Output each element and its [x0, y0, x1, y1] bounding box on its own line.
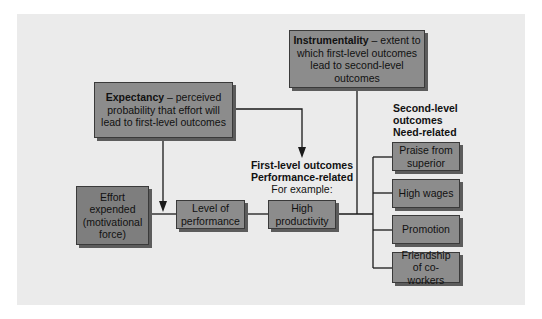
second-level-item-label: Praise from superior	[396, 144, 456, 169]
effort-expended-label: Effort expended (motivational force)	[79, 191, 146, 241]
second-level-item-promotion: Promotion	[392, 215, 460, 244]
second-level-item-label: High wages	[399, 187, 454, 200]
second-level-item-high-wages: High wages	[392, 179, 460, 208]
second-level-title: Second-level outcomes	[393, 102, 483, 126]
second-level-item-label: Promotion	[402, 223, 450, 236]
first-level-example-label: For example:	[240, 183, 364, 195]
instrumentality-box: Instrumentality – extent to which first-…	[289, 30, 425, 88]
second-level-item-label: Friendship of co-workers	[396, 249, 456, 287]
first-level-subtitle: Performance-related	[240, 171, 364, 183]
second-level-outcomes-label: Second-level outcomes Need-related	[393, 102, 483, 138]
second-level-subtitle: Need-related	[393, 126, 483, 138]
second-level-item-friendship: Friendship of co-workers	[392, 252, 460, 283]
high-productivity-label: High productivity	[272, 202, 332, 227]
level-of-performance-label: Level of performance	[180, 202, 241, 227]
high-productivity-box: High productivity	[268, 200, 336, 229]
arrow-down-icon	[159, 201, 167, 212]
second-level-item-praise: Praise from superior	[392, 142, 460, 171]
first-level-title: First-level outcomes	[240, 159, 364, 171]
arrow-down-icon	[298, 147, 306, 158]
first-level-outcomes-label: First-level outcomes Performance-related…	[240, 159, 364, 195]
expectancy-box: Expectancy – perceived probability that …	[94, 82, 233, 138]
level-of-performance-box: Level of performance	[176, 200, 245, 229]
effort-expended-box: Effort expended (motivational force)	[76, 186, 149, 245]
expectancy-term: Expectancy	[106, 91, 164, 103]
instrumentality-term: Instrumentality	[293, 34, 368, 46]
